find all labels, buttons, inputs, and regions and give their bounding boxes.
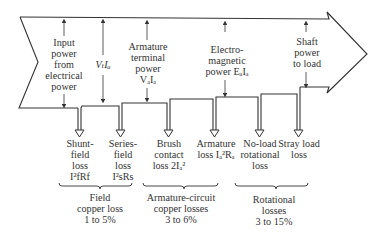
group-braces: [59, 183, 308, 189]
shaft-power-label: Shaft power to load: [286, 36, 328, 69]
loss-brush-contact: Brush contact loss 2Iₐ²: [146, 138, 192, 171]
vt-ia-label: VₜIₐ: [92, 59, 114, 70]
electromagnetic-power-label: Electro- magnetic power EₐIₐ: [196, 44, 258, 77]
group-rotational-losses: Rotational losses 3 to 15%: [242, 194, 306, 227]
loss-series-field: Series- field loss I²sRs: [101, 138, 145, 182]
input-power-label: Input power from electrical power: [42, 37, 86, 92]
loss-shunt-field: Shunt- field loss I²fRf: [58, 138, 102, 182]
loss-stray-load: Stray load loss: [274, 138, 324, 160]
group-field-copper-loss: Field copper loss 1 to 5%: [68, 192, 132, 225]
loss-armature: Armature loss Iₐ²Rₐ: [192, 138, 240, 160]
armature-terminal-power-label: Armature terminal power VₐIₐ: [122, 41, 174, 85]
loss-arrowheads: [75, 130, 303, 137]
group-armature-circuit-copper-losses: Armature-circuit copper losses 3 to 6%: [141, 192, 221, 225]
